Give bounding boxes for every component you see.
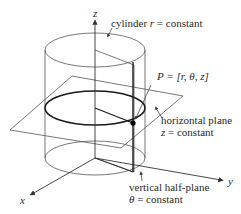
vertical-half-plane-suffix: = constant bbox=[134, 193, 182, 205]
radius-line bbox=[95, 108, 133, 123]
cylinder-pointer bbox=[108, 28, 112, 36]
vertical-half-plane-annotation-line2: θ = constant bbox=[129, 193, 183, 205]
cylinder-annotation-suffix: = constant bbox=[154, 17, 202, 29]
horizontal-plane bbox=[10, 76, 183, 148]
x-axis-label: x bbox=[20, 194, 25, 206]
cylinder-annotation-prefix: cylinder bbox=[111, 17, 150, 29]
z-axis-label: z bbox=[93, 7, 97, 19]
y-axis bbox=[95, 158, 221, 180]
horizontal-plane-annotation-line1: horizontal plane bbox=[161, 114, 232, 126]
x-axis bbox=[32, 158, 95, 194]
vertical-half-plane-annotation-line1: vertical half-plane bbox=[129, 181, 209, 193]
horizontal-plane-suffix: = constant bbox=[165, 126, 213, 138]
point-annotation: P = [r, θ, z] bbox=[157, 70, 209, 82]
bottom-radius-line bbox=[95, 158, 133, 172]
vertical-half-plane bbox=[95, 50, 134, 172]
y-axis-label: y bbox=[228, 175, 233, 187]
point-p bbox=[130, 120, 135, 125]
vertical-half-plane-pointer bbox=[141, 173, 142, 181]
cylinder-annotation: cylinder r = constant bbox=[111, 17, 202, 29]
horizontal-plane-annotation-line2: z = constant bbox=[161, 126, 214, 138]
